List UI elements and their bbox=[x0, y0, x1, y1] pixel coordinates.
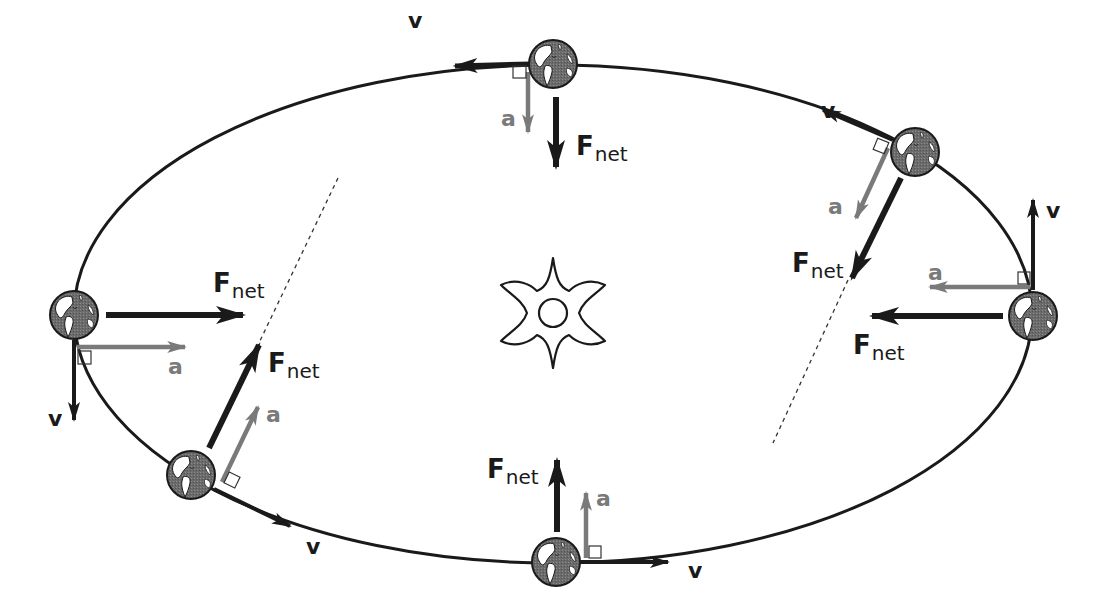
force-symbol: F bbox=[213, 268, 231, 298]
velocity-label-top: v bbox=[408, 10, 422, 32]
earth-icon-right bbox=[1009, 292, 1057, 340]
right-angle-marker-top bbox=[513, 66, 526, 78]
force-label-top: Fnet bbox=[576, 133, 628, 159]
earth-icon-lower-left bbox=[167, 451, 215, 499]
velocity-label-lower-left: v bbox=[306, 536, 320, 558]
acceleration-arrow-upper-right bbox=[856, 148, 888, 218]
velocity-label-left: v bbox=[48, 408, 62, 430]
acceleration-label-left: a bbox=[168, 356, 183, 378]
acceleration-label-lower-left: a bbox=[266, 404, 281, 426]
right-angle-marker-bottom bbox=[589, 546, 601, 558]
acceleration-label-right: a bbox=[928, 262, 943, 284]
force-subscript: net bbox=[506, 465, 539, 489]
velocity-label-upper-right: v bbox=[821, 100, 835, 122]
orbit-diagram bbox=[0, 0, 1101, 612]
force-subscript: net bbox=[811, 259, 844, 283]
force-label-left: Fnet bbox=[213, 270, 265, 296]
force-arrow-upper-right bbox=[852, 178, 901, 278]
force-symbol: F bbox=[268, 348, 286, 378]
force-label-upper-right: Fnet bbox=[792, 250, 844, 276]
force-label-bottom: Fnet bbox=[487, 456, 539, 482]
force-symbol: F bbox=[576, 131, 594, 161]
position-top bbox=[455, 40, 577, 167]
velocity-label-right: v bbox=[1046, 200, 1060, 222]
earth-icon-top bbox=[529, 40, 577, 88]
force-subscript: net bbox=[872, 341, 905, 365]
acceleration-label-bottom: a bbox=[596, 488, 611, 510]
force-subscript: net bbox=[232, 279, 265, 303]
right-dashed-line bbox=[773, 280, 848, 443]
acceleration-label-upper-right: a bbox=[828, 196, 843, 218]
force-label-lower-left: Fnet bbox=[268, 350, 320, 376]
force-symbol: F bbox=[792, 248, 810, 278]
sun-icon bbox=[501, 258, 605, 368]
left-dashed-line bbox=[258, 178, 338, 345]
position-bottom bbox=[532, 460, 668, 586]
velocity-label-bottom: v bbox=[688, 560, 702, 582]
force-symbol: F bbox=[487, 454, 505, 484]
force-label-right: Fnet bbox=[853, 332, 905, 358]
position-right bbox=[872, 200, 1057, 340]
acceleration-label-top: a bbox=[501, 108, 516, 130]
earth-icon-upper-right bbox=[891, 128, 939, 176]
force-arrow-lower-left bbox=[209, 345, 259, 448]
acceleration-arrow-lower-left bbox=[222, 407, 258, 482]
position-left bbox=[50, 291, 243, 420]
force-symbol: F bbox=[853, 330, 871, 360]
force-subscript: net bbox=[287, 359, 320, 383]
velocity-arrow-lower-left bbox=[214, 489, 290, 526]
force-subscript: net bbox=[595, 142, 628, 166]
earth-icon-bottom bbox=[532, 538, 580, 586]
earth-icon-left bbox=[50, 291, 98, 339]
